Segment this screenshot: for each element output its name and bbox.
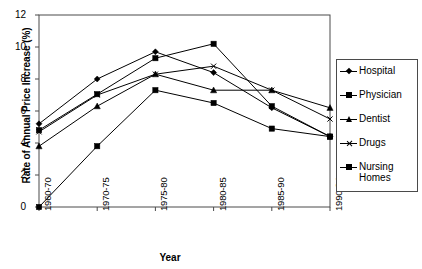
- legend-label: Hospital: [357, 65, 395, 76]
- legend-label: Nursing Homes: [357, 161, 393, 183]
- data-point-physician-1975-80: [153, 56, 158, 61]
- x-marker: [340, 138, 357, 149]
- data-point-nursing-homes-1985-90: [269, 126, 274, 131]
- x-tick-1960-70: 1960-70: [43, 178, 53, 211]
- diamond-marker: [340, 66, 357, 77]
- legend-item-hospital[interactable]: Hospital: [340, 65, 414, 88]
- legend-item-nursing-homes[interactable]: Nursing Homes: [340, 161, 414, 184]
- x-tick-1980-85: 1980-85: [218, 178, 228, 211]
- legend-item-physician[interactable]: Physician: [340, 89, 414, 112]
- legend-triangle-glyph: [346, 116, 352, 122]
- series-line-nursing-homes: [39, 90, 330, 207]
- x-tick-1970-75: 1970-75: [101, 178, 111, 211]
- legend-label: Physician: [357, 89, 402, 100]
- data-point-dentist-1970-75: [94, 103, 100, 109]
- data-point-dentist-1960-70: [36, 143, 42, 149]
- series-line-drugs: [39, 66, 330, 132]
- legend-square-glyph: [346, 164, 352, 170]
- data-point-nursing-homes-1990-94: [327, 134, 332, 139]
- square-marker: [340, 162, 357, 173]
- data-point-physician-1980-85: [211, 41, 216, 46]
- data-point-hospital-1980-85: [211, 70, 217, 76]
- square-marker: [340, 90, 357, 101]
- series-line-dentist: [39, 74, 330, 146]
- plot-frame: [39, 15, 330, 207]
- legend-diamond-glyph: [346, 68, 353, 75]
- data-point-nursing-homes-1980-85: [211, 100, 216, 105]
- data-point-nursing-homes-1960-70: [36, 204, 41, 209]
- legend-x-glyph: [346, 140, 352, 146]
- x-tick-1985-90: 1985-90: [276, 178, 286, 211]
- data-point-physician-1985-90: [269, 104, 274, 109]
- data-point-hospital-1975-80: [152, 49, 158, 55]
- x-axis-title: Year: [0, 252, 340, 263]
- x-tick-1975-80: 1975-80: [159, 178, 169, 211]
- legend-label: Dentist: [357, 113, 390, 124]
- legend-label: Drugs: [357, 137, 386, 148]
- legend-item-dentist[interactable]: Dentist: [340, 113, 414, 136]
- legend-square-glyph: [346, 92, 352, 98]
- data-point-nursing-homes-1975-80: [153, 88, 158, 93]
- legend-item-drugs[interactable]: Drugs: [340, 137, 414, 160]
- price-increase-line-chart: Rate of Annual Price Increase (%) 121086…: [0, 0, 422, 269]
- chart-legend: HospitalPhysicianDentistDrugsNursing Hom…: [336, 59, 418, 192]
- triangle-marker: [340, 114, 357, 125]
- data-point-nursing-homes-1970-75: [95, 144, 100, 149]
